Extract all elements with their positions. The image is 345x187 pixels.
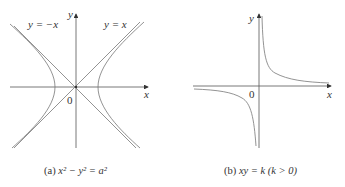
panel-b-y-axis-label: y [249,12,254,24]
panel-b-origin-label: 0 [249,88,255,100]
panel-a-asymptote-y-eq-x [14,22,140,148]
panel-b-caption-prefix: (b) [224,165,236,176]
panel-b-caption: (b) xy = k (k > 0) [224,165,297,176]
panel-a-x-axis-label: x [144,88,149,100]
panel-a-origin-label: 0 [67,94,73,106]
panel-b-caption-equation: xy = k (k > 0) [239,165,297,176]
panel-b-x-axis-label: x [327,88,332,100]
panel-a-asymptote-left-label: y = −x [28,18,58,30]
panel-b-graph [193,14,331,148]
panel-a-caption-equation: x² − y² = a² [58,165,107,176]
panel-a-asymptote-right-label: y = x [104,18,127,30]
panel-a-caption: (a) x² − y² = a² [44,165,107,176]
panel-a-origin-dot [75,86,77,88]
panel-b-hyperbola-q1 [262,16,329,83]
panel-a-caption-prefix: (a) [44,165,56,176]
panel-a-y-axis-label: y [68,8,73,20]
panel-a-graph [10,14,148,148]
panel-b-hyperbola-q3 [194,89,256,146]
